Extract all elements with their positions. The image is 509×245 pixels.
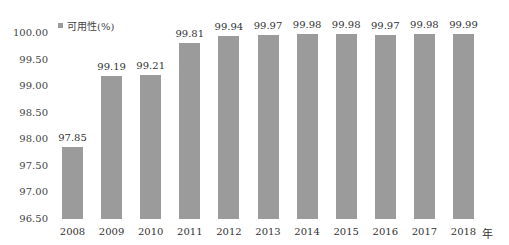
value-label: 99.94: [209, 21, 249, 32]
value-label: 99.98: [287, 19, 327, 30]
value-label: 97.85: [53, 132, 93, 143]
x-tick-label: 2013: [248, 226, 288, 237]
bar-2012: [218, 36, 239, 219]
availability-bar-chart: 可用性(%) 96.5097.0097.5098.0098.5099.0099.…: [0, 0, 509, 245]
x-tick-label: 2008: [53, 226, 93, 237]
x-tick-label: 2014: [287, 226, 327, 237]
legend: 可用性(%): [58, 18, 114, 33]
bar-2017: [414, 34, 435, 219]
value-label: 99.21: [131, 60, 171, 71]
y-tick-label: 97.50: [0, 160, 48, 171]
value-label: 99.97: [248, 20, 288, 31]
legend-swatch: [58, 23, 63, 28]
bar-2018: [453, 34, 474, 219]
x-axis-unit: 年: [482, 225, 493, 241]
y-tick-label: 98.00: [0, 133, 48, 144]
y-tick-label: 100.00: [0, 27, 48, 38]
value-label: 99.98: [404, 19, 444, 30]
bar-2015: [336, 34, 357, 219]
x-tick-label: 2012: [209, 226, 249, 237]
bar-2010: [140, 75, 161, 219]
legend-label: 可用性(%): [67, 18, 114, 33]
x-tick-label: 2015: [326, 226, 366, 237]
x-tick-label: 2016: [365, 226, 405, 237]
bar-2009: [101, 76, 122, 219]
y-tick-label: 99.50: [0, 54, 48, 65]
y-tick-label: 99.00: [0, 80, 48, 91]
y-tick-label: 98.50: [0, 107, 48, 118]
bar-2013: [258, 35, 279, 219]
value-label: 99.98: [326, 19, 366, 30]
x-tick-label: 2011: [170, 226, 210, 237]
bar-2008: [62, 147, 83, 219]
x-tick-label: 2018: [444, 226, 484, 237]
x-tick-label: 2009: [92, 226, 132, 237]
value-label: 99.99: [444, 19, 484, 30]
x-tick-label: 2010: [131, 226, 171, 237]
bar-2016: [375, 35, 396, 219]
y-tick-label: 97.00: [0, 186, 48, 197]
value-label: 99.97: [365, 20, 405, 31]
value-label: 99.81: [170, 28, 210, 39]
value-label: 99.19: [92, 61, 132, 72]
bar-2011: [179, 43, 200, 219]
bar-2014: [297, 34, 318, 219]
x-tick-label: 2017: [404, 226, 444, 237]
y-tick-label: 96.50: [0, 213, 48, 224]
